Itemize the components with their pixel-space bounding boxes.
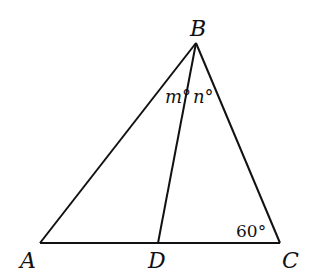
angle-label-60: 60° — [236, 221, 266, 241]
point-label-D: D — [147, 248, 166, 273]
point-label-B: B — [189, 16, 206, 41]
segment-BD — [158, 43, 196, 243]
angle-label-m: m° — [165, 86, 191, 107]
angle-label-n: n° — [193, 86, 214, 107]
triangle-diagram: B A D C m° n° 60° — [0, 0, 315, 278]
point-label-A: A — [18, 248, 36, 273]
segment-BC — [196, 43, 280, 243]
point-label-C: C — [282, 248, 299, 273]
segment-AB — [40, 43, 196, 243]
